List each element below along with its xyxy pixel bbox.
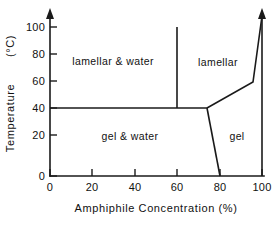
phase-diagram-figure: 100 80 60 40 20 0 0 20 40 60 80 100 Amph…: [0, 0, 279, 227]
y-tick-label-60: 60: [32, 75, 45, 87]
region-label-lamellar: lamellar: [198, 56, 238, 68]
phase-boundaries: [50, 16, 262, 176]
x-tick-label-40: 40: [129, 181, 142, 193]
y-tick-label-0: 0: [39, 170, 45, 182]
x-tick-label-80: 80: [214, 181, 227, 193]
region-label-gel: gel: [229, 130, 244, 142]
region-label-lamellar-and-water: lamellar & water: [72, 55, 154, 67]
x-axis-title: Amphiphile Concentration (%): [75, 202, 238, 214]
y-axis-title: Temperature: [4, 84, 16, 152]
y-tick-label-80: 80: [32, 48, 45, 60]
region-label-gel-and-water: gel & water: [102, 130, 159, 142]
x-tick-label-60: 60: [171, 181, 184, 193]
y-tick-label-40: 40: [32, 102, 45, 114]
y-axis: [46, 8, 57, 176]
x-tick-label-100: 100: [253, 181, 272, 193]
y-axis-arrow-icon: [46, 8, 54, 19]
x-tick-label-20: 20: [86, 181, 99, 193]
y-tick-label-20: 20: [32, 129, 45, 141]
y-tick-labels: 100 80 60 40 20 0: [26, 21, 45, 182]
gel-water-gel-lower-boundary: [207, 108, 220, 176]
phase-diagram-svg: 100 80 60 40 20 0 0 20 40 60 80 100 Amph…: [0, 0, 279, 227]
x-tick-labels: 0 20 40 60 80 100: [47, 181, 272, 193]
x-axis: [50, 169, 264, 176]
y-axis-unit: (°C): [4, 35, 16, 57]
x-tick-label-0: 0: [47, 181, 53, 193]
y-tick-label-100: 100: [26, 21, 45, 33]
